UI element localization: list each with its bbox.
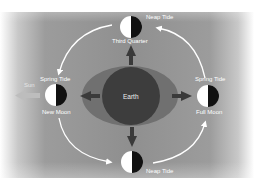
sun-label: Sun — [24, 82, 35, 89]
new-moon-tide-label: Spring Tide — [40, 76, 70, 83]
moon-first-quarter — [121, 151, 143, 173]
moon-full — [197, 85, 219, 107]
earth-label: Earth — [123, 93, 139, 100]
sun-arrow — [15, 90, 40, 101]
first-quarter-tide-label: Neap Tide — [146, 168, 173, 175]
third-quarter-tide-label: Neap Tide — [146, 14, 173, 21]
new-moon-phase-label: New Moon — [42, 109, 71, 116]
moon-new — [45, 84, 67, 106]
third-quarter-phase-label: Third Quarter — [112, 38, 148, 45]
moon-third-quarter — [120, 16, 142, 38]
full-moon-tide-label: Spring Tide — [195, 76, 225, 83]
full-moon-phase-label: Full Moon — [196, 109, 222, 116]
